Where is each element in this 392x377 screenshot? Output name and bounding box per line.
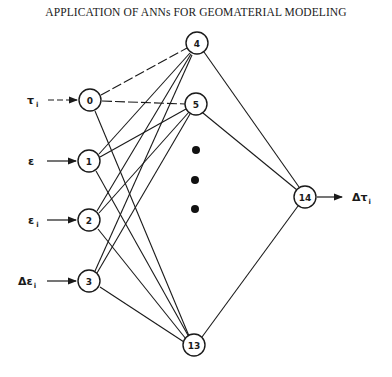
node-13: 13 bbox=[183, 334, 205, 356]
node-1: 1 bbox=[78, 150, 100, 172]
node-4: 4 bbox=[186, 32, 208, 54]
svg-text:2: 2 bbox=[86, 216, 92, 226]
svg-text:1: 1 bbox=[86, 157, 92, 167]
svg-text:5: 5 bbox=[193, 100, 199, 110]
svg-text:14: 14 bbox=[299, 193, 312, 203]
node-3: 3 bbox=[78, 270, 100, 292]
hidden-ellipsis-dots bbox=[191, 146, 200, 213]
node-2: 2 bbox=[78, 209, 100, 231]
node-5: 5 bbox=[185, 93, 207, 115]
input-labels: τi ε εi Δεi Δτi bbox=[18, 94, 371, 290]
network-diagram: τi ε εi Δεi Δτi 0 1 2 3 4 5 13 14 bbox=[0, 0, 392, 377]
svg-text:13: 13 bbox=[188, 341, 201, 351]
label-tau: τi bbox=[27, 94, 38, 109]
label-epsilon: ε bbox=[28, 155, 34, 168]
node-0: 0 bbox=[79, 89, 101, 111]
label-output-delta-tau: Δτi bbox=[352, 191, 371, 206]
connections bbox=[95, 48, 299, 342]
svg-text:3: 3 bbox=[86, 277, 92, 287]
node-14: 14 bbox=[294, 186, 316, 208]
label-delta-epsilon: Δεi bbox=[18, 275, 36, 290]
svg-text:4: 4 bbox=[194, 39, 200, 49]
label-epsilon-i: εi bbox=[28, 214, 39, 229]
svg-text:0: 0 bbox=[87, 96, 93, 106]
